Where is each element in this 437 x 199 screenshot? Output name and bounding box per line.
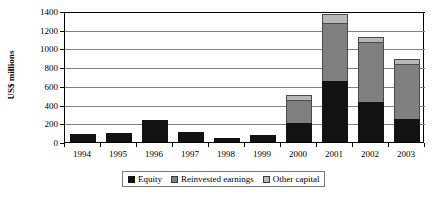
bar-2001 bbox=[322, 14, 348, 142]
x-axis-tick-label: 2001 bbox=[314, 149, 354, 160]
y-axis-tick-label: 200 bbox=[24, 120, 58, 129]
bar-1999 bbox=[250, 135, 276, 142]
bar-segment bbox=[322, 14, 348, 23]
x-axis-tick-mark bbox=[208, 143, 209, 147]
bar-segment bbox=[394, 64, 420, 118]
y-axis-title-text: US$ millions bbox=[6, 51, 16, 100]
stacked-bar-chart: US$ millions 0200400600800100012001400 E… bbox=[0, 0, 437, 199]
bar-segment bbox=[358, 102, 384, 142]
legend-item-label: Other capital bbox=[273, 174, 320, 184]
y-axis-tick-label: 400 bbox=[24, 102, 58, 111]
y-axis-tick-mark bbox=[60, 68, 64, 69]
equity-swatch-icon bbox=[128, 176, 135, 183]
x-axis-tick-label: 2000 bbox=[278, 149, 318, 160]
y-axis-tick-mark bbox=[60, 124, 64, 125]
bar-2002 bbox=[358, 37, 384, 142]
x-axis-tick-mark bbox=[388, 143, 389, 147]
reinvested-earnings-swatch-icon bbox=[171, 176, 178, 183]
y-axis-tick-mark bbox=[60, 87, 64, 88]
legend-item-label: Reinvested earnings bbox=[181, 174, 254, 184]
bar-1997 bbox=[178, 132, 204, 142]
bar-segment bbox=[394, 119, 420, 142]
y-axis-tick-label: 1000 bbox=[24, 45, 58, 54]
bar-2000 bbox=[286, 95, 312, 142]
y-axis-tick-mark bbox=[60, 31, 64, 32]
x-axis-tick-label: 1994 bbox=[62, 149, 102, 160]
x-axis-tick-label: 1995 bbox=[98, 149, 138, 160]
x-axis-tick-label: 1997 bbox=[170, 149, 210, 160]
x-axis-tick-mark bbox=[424, 143, 425, 147]
x-axis-tick-mark bbox=[136, 143, 137, 147]
plot-area bbox=[64, 12, 424, 143]
y-axis-title: US$ millions bbox=[2, 0, 20, 150]
y-axis-tick-labels: 0200400600800100012001400 bbox=[24, 0, 58, 150]
bar-segment bbox=[106, 133, 132, 142]
y-axis-tick-mark bbox=[60, 12, 64, 13]
x-axis-tick-mark bbox=[316, 143, 317, 147]
chart-legend: EquityReinvested earningsOther capital bbox=[122, 171, 325, 187]
y-axis-tick-label: 1400 bbox=[24, 8, 58, 17]
bar-segment bbox=[322, 81, 348, 142]
plot-top-border bbox=[65, 12, 425, 13]
legend-item-reinvested-earnings: Reinvested earnings bbox=[171, 174, 254, 184]
legend-item-other-capital: Other capital bbox=[263, 174, 320, 184]
gridline bbox=[65, 31, 425, 32]
x-axis-tick-mark bbox=[64, 143, 65, 147]
bar-segment bbox=[358, 42, 384, 102]
bar-segment bbox=[286, 123, 312, 142]
y-axis-tick-mark bbox=[60, 106, 64, 107]
legend-item-label: Equity bbox=[138, 174, 162, 184]
y-axis-tick-mark bbox=[60, 49, 64, 50]
x-axis-tick-mark bbox=[280, 143, 281, 147]
y-axis-tick-label: 0 bbox=[24, 139, 58, 148]
bar-segment bbox=[322, 23, 348, 81]
x-axis-tick-label: 1998 bbox=[206, 149, 246, 160]
x-axis-tick-label: 1996 bbox=[134, 149, 174, 160]
y-axis-tick-label: 600 bbox=[24, 83, 58, 92]
legend-item-equity: Equity bbox=[128, 174, 162, 184]
other-capital-swatch-icon bbox=[263, 176, 270, 183]
bar-1994 bbox=[70, 134, 96, 142]
x-axis-tick-label: 2002 bbox=[350, 149, 390, 160]
y-axis-tick-label: 1200 bbox=[24, 27, 58, 36]
bar-2003 bbox=[394, 59, 420, 142]
bar-segment bbox=[250, 135, 276, 142]
y-axis-tick-label: 800 bbox=[24, 64, 58, 73]
x-axis-tick-label: 2003 bbox=[386, 149, 426, 160]
bar-1996 bbox=[142, 120, 168, 142]
bar-segment bbox=[178, 132, 204, 142]
x-axis-tick-mark bbox=[352, 143, 353, 147]
bar-segment bbox=[286, 100, 312, 123]
bar-segment bbox=[214, 138, 240, 142]
bar-1995 bbox=[106, 133, 132, 142]
x-axis-tick-mark bbox=[100, 143, 101, 147]
x-axis-tick-mark bbox=[244, 143, 245, 147]
bar-1998 bbox=[214, 138, 240, 142]
x-axis-tick-mark bbox=[172, 143, 173, 147]
bar-segment bbox=[70, 134, 96, 142]
bar-segment bbox=[142, 120, 168, 142]
x-axis-tick-label: 1999 bbox=[242, 149, 282, 160]
